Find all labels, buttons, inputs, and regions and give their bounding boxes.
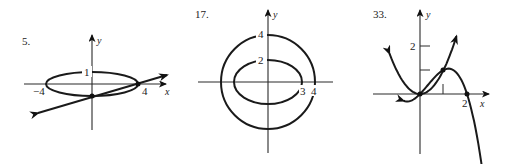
problem-number: 5. (22, 35, 31, 47)
intersection-point (136, 82, 141, 87)
intersection-point (90, 94, 95, 99)
cubic-curve (404, 69, 489, 164)
y-axis-label: y (96, 35, 102, 46)
tick-label-y-4: 4 (258, 28, 264, 40)
tick-label-y-2: 2 (410, 40, 416, 52)
x-axis-label: x (164, 86, 170, 97)
figure-canvas: 5. y x 1 −4 4 17. y 4 2 3 4 33. y x (0, 0, 508, 164)
tick-label-y-2: 2 (258, 54, 264, 66)
tick-label-x-3: 3 (300, 85, 306, 97)
problem-number: 17. (195, 8, 209, 20)
tick-label-x-4: 4 (142, 85, 148, 97)
x-axis-label: x (479, 98, 485, 109)
panel-17: 17. y 4 2 3 4 (195, 8, 333, 153)
y-axis-label: y (425, 9, 431, 20)
tick-label-x-4: 4 (311, 85, 317, 97)
panel-5: 5. y x 1 −4 4 (22, 35, 170, 130)
x-intercept-point (465, 92, 470, 97)
intersection-point (441, 68, 446, 73)
y-axis-label: y (272, 9, 278, 20)
tick-label-y-1: 1 (84, 66, 90, 78)
tick-label-x-neg4: −4 (33, 85, 45, 97)
line-curve (38, 75, 167, 113)
problem-number: 33. (373, 8, 387, 20)
panel-33: 33. y x 2 2 (373, 8, 489, 164)
intersection-point (418, 92, 423, 97)
parabola-curve (389, 36, 456, 94)
tick-label-x-2: 2 (462, 97, 468, 109)
